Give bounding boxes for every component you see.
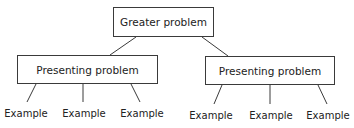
example-leaf: Example bbox=[249, 110, 292, 121]
root-node-label: Greater problem bbox=[120, 16, 207, 28]
connector-right-ex1 bbox=[214, 85, 222, 104]
connector-left-ex1 bbox=[27, 84, 36, 102]
example-leaf: Example bbox=[4, 108, 47, 119]
example-leaf: Example bbox=[120, 108, 163, 119]
example-leaf: Example bbox=[189, 110, 232, 121]
connector-root-right bbox=[202, 37, 228, 56]
connector-root-left bbox=[110, 37, 136, 55]
example-leaf: Example bbox=[62, 108, 105, 119]
child-node-label: Presenting problem bbox=[36, 64, 138, 76]
child-node-presenting-problem-right: Presenting problem bbox=[205, 56, 335, 85]
root-node-greater-problem: Greater problem bbox=[113, 7, 214, 37]
example-leaf: Example bbox=[306, 110, 349, 121]
child-node-presenting-problem-left: Presenting problem bbox=[17, 55, 158, 84]
child-node-label: Presenting problem bbox=[219, 65, 321, 77]
connector-left-ex3 bbox=[131, 84, 140, 102]
connector-right-ex3 bbox=[318, 85, 327, 104]
